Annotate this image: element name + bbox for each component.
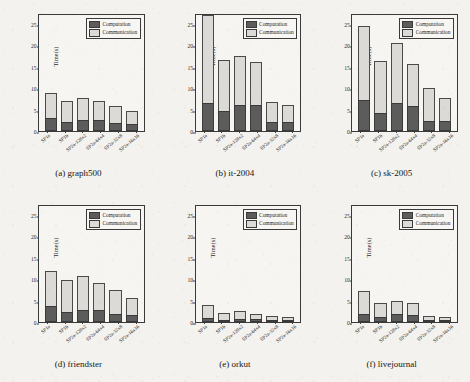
bar-segment-communication (61, 280, 73, 312)
bar-segment-computation (61, 122, 73, 131)
legend-label: Communication (102, 221, 137, 226)
bar-segment-computation (266, 122, 278, 131)
x-tick-label: SP1b (58, 133, 69, 144)
x-tick-label: SP1b (215, 133, 226, 144)
y-tick-mark (37, 238, 40, 239)
legend-swatch-icon (246, 220, 257, 228)
bar-segment-communication (234, 56, 246, 105)
bar-segment-computation (61, 312, 73, 322)
bar-segment-communication (77, 276, 89, 309)
bar-segment-communication (202, 15, 214, 103)
x-tick-mark (378, 321, 379, 324)
chart-legend: ComputationCommunication (399, 209, 454, 230)
bar-segment-communication (250, 62, 262, 105)
legend-item-computation: Computation (246, 21, 294, 29)
legend-item-computation: Computation (402, 212, 450, 220)
legend-label: Computation (416, 213, 444, 218)
stacked-bar[interactable] (45, 15, 57, 131)
y-tick-mark (37, 68, 40, 69)
legend-label: Communication (416, 221, 451, 226)
legend-swatch-icon (246, 21, 257, 29)
stacked-bar[interactable] (45, 206, 57, 322)
x-axis-labels: SP1aSP1bSP2a-128x2SP2a-64x4SP2a-32x8SP2a… (38, 133, 145, 163)
stacked-bar[interactable] (61, 15, 73, 131)
y-tick-mark (193, 302, 196, 303)
x-tick-label: SP1b (372, 324, 383, 335)
legend-item-communication: Communication (89, 220, 137, 228)
y-tick-mark (350, 111, 353, 112)
bar-segment-computation (45, 306, 57, 322)
bar-segment-communication (391, 301, 403, 314)
bar-segment-communication (423, 88, 435, 121)
bar-segment-communication (218, 313, 230, 320)
bar-segment-computation (266, 320, 278, 322)
bar-segment-computation (423, 320, 435, 322)
legend-swatch-icon (89, 212, 100, 220)
legend-swatch-icon (402, 212, 413, 220)
legend-label: Computation (102, 22, 130, 27)
bar-segment-communication (234, 311, 246, 319)
chart-legend: ComputationCommunication (399, 18, 454, 39)
x-tick-label: SP1a (354, 324, 365, 334)
bar-segment-communication (77, 98, 89, 120)
legend-label: Computation (259, 213, 287, 218)
plot-area-c: Time(s)0510152025ComputationCommunicatio… (351, 14, 458, 132)
x-tick-label: SP2a-64x4 (398, 324, 418, 342)
stacked-bar[interactable] (358, 15, 370, 131)
chart-panel-e: Time(s)0510152025ComputationCommunicatio… (157, 191, 314, 382)
y-tick-mark (37, 216, 40, 217)
bar-segment-computation (218, 320, 230, 322)
legend-label: Communication (259, 30, 294, 35)
bar-segment-communication (61, 101, 73, 122)
legend-label: Communication (102, 30, 137, 35)
stacked-bar[interactable] (218, 206, 230, 322)
bar-segment-communication (202, 305, 214, 318)
bar-segment-communication (109, 290, 121, 314)
y-tick-mark (193, 25, 196, 26)
x-axis-labels: SP1aSP1bSP2a-128x2SP2a-64x4SP2a-32x8SP2a… (351, 324, 458, 354)
chart-legend: ComputationCommunication (86, 209, 141, 230)
bar-segment-communication (358, 26, 370, 100)
x-tick-label: SP1b (215, 324, 226, 335)
bar-segment-computation (109, 314, 121, 322)
stacked-bar[interactable] (202, 15, 214, 131)
bar-segment-computation (374, 113, 386, 131)
chart-panel-b: Time(s)0510152025ComputationCommunicatio… (157, 0, 314, 191)
x-tick-label: SP1a (41, 133, 52, 143)
y-tick-mark (193, 68, 196, 69)
y-tick-mark (350, 68, 353, 69)
y-tick-mark (193, 111, 196, 112)
stacked-bar[interactable] (202, 206, 214, 322)
stacked-bar[interactable] (61, 206, 73, 322)
bar-segment-communication (407, 303, 419, 315)
plot-area-b: Time(s)0510152025ComputationCommunicatio… (195, 14, 302, 132)
legend-swatch-icon (246, 29, 257, 37)
bar-segment-communication (93, 101, 105, 120)
stacked-bar[interactable] (374, 206, 386, 322)
y-tick-mark (193, 238, 196, 239)
bar-segment-communication (93, 283, 105, 310)
x-tick-label: SP2a-64x4 (85, 133, 105, 151)
x-tick-label: SP2a-64x4 (242, 324, 262, 342)
stacked-bar[interactable] (358, 206, 370, 322)
x-tick-label: SP1a (197, 133, 208, 143)
legend-item-communication: Communication (402, 29, 450, 37)
y-tick-mark (350, 281, 353, 282)
bar-segment-communication (358, 291, 370, 315)
stacked-bar[interactable] (374, 15, 386, 131)
bar-segment-computation (218, 111, 230, 131)
panel-caption-a: (a) graph500 (0, 168, 157, 178)
legend-swatch-icon (89, 29, 100, 37)
y-tick-mark (37, 25, 40, 26)
bar-segment-computation (423, 121, 435, 131)
legend-label: Computation (102, 213, 130, 218)
bar-segment-computation (374, 317, 386, 322)
chart-legend: ComputationCommunication (243, 18, 298, 39)
bar-segment-communication (407, 64, 419, 106)
stacked-bar[interactable] (218, 15, 230, 131)
legend-swatch-icon (402, 21, 413, 29)
bar-segment-computation (45, 118, 57, 131)
x-tick-label: SP1a (197, 324, 208, 334)
legend-label: Computation (416, 22, 444, 27)
legend-label: Communication (416, 30, 451, 35)
